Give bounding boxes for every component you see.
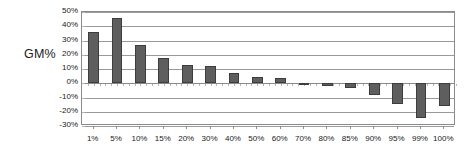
bar (299, 83, 310, 85)
plot-area (81, 11, 455, 125)
bar (322, 83, 333, 86)
bar (345, 83, 356, 87)
y-axis-tick-label: 30% (8, 36, 78, 44)
x-axis-tick-mark (116, 126, 117, 129)
x-axis-tick-label: 20% (178, 134, 194, 143)
x-axis-tick-mark (93, 126, 94, 129)
x-axis-tick-label: 10% (131, 134, 147, 143)
bars-layer (82, 12, 454, 124)
x-axis-tick-label: 15% (155, 134, 171, 143)
x-axis-tick-mark (350, 126, 351, 129)
x-axis-tick-label: 5% (110, 134, 122, 143)
x-axis-tick-label: 30% (202, 134, 218, 143)
x-axis-tick-mark (233, 126, 234, 129)
bar (252, 77, 263, 83)
bar (275, 78, 286, 83)
bar (158, 58, 169, 84)
y-axis-tick-label: -30% (8, 121, 78, 129)
y-axis-tick-label: 50% (8, 7, 78, 15)
bar (439, 83, 450, 106)
bar (416, 83, 427, 118)
y-axis-tick-label: 0% (8, 78, 78, 86)
x-axis-tick-mark (373, 126, 374, 129)
y-axis-tick-label: 10% (8, 64, 78, 72)
bar (205, 66, 216, 83)
x-axis-tick-label: 80% (318, 134, 334, 143)
gm-percent-bar-chart: GM% 50%40%30%20%10%0%-10%-20%-30% 1%5%10… (0, 0, 464, 154)
x-axis-tick-mark (139, 126, 140, 129)
y-axis-tick-label: 40% (8, 21, 78, 29)
x-axis-tick-mark (210, 126, 211, 129)
x-axis-tick-label: 1% (87, 134, 99, 143)
x-axis-tick-mark (303, 126, 304, 129)
y-axis-tick-labels: 50%40%30%20%10%0%-10%-20%-30% (0, 0, 78, 154)
bar (182, 65, 193, 84)
bar (112, 18, 123, 84)
bar (369, 83, 380, 94)
x-axis-tick-label: 40% (225, 134, 241, 143)
y-axis-tick-label: -10% (8, 93, 78, 101)
x-axis-tick-mark (397, 126, 398, 129)
bar (135, 45, 146, 83)
x-axis-tick-label: 100% (433, 134, 453, 143)
x-axis-tick-label: 60% (272, 134, 288, 143)
zero-line-minor-tick (456, 84, 457, 86)
x-axis-tick-label: 99% (412, 134, 428, 143)
bar (392, 83, 403, 104)
x-axis-tick-mark (256, 126, 257, 129)
y-axis-tick-label: 20% (8, 50, 78, 58)
x-axis-tick-label: 85% (342, 134, 358, 143)
y-axis-tick-label: -20% (8, 107, 78, 115)
x-axis-tick-label: 95% (389, 134, 405, 143)
x-axis-tick-mark (280, 126, 281, 129)
x-axis-tick-mark (163, 126, 164, 129)
bar (88, 32, 99, 83)
x-axis-tick-mark (186, 126, 187, 129)
bar (229, 73, 240, 83)
x-axis-tick-mark (420, 126, 421, 129)
x-axis-tick-mark (326, 126, 327, 129)
x-axis-tick-mark (443, 126, 444, 129)
x-axis-tick-labels: 1%5%10%15%20%30%40%50%60%70%80%85%90%95%… (81, 126, 455, 154)
x-axis-tick-label: 70% (295, 134, 311, 143)
x-axis-tick-label: 90% (365, 134, 381, 143)
x-axis-tick-label: 50% (248, 134, 264, 143)
